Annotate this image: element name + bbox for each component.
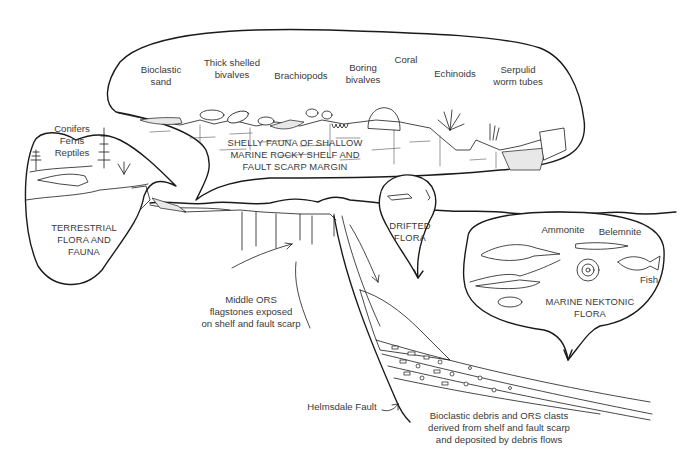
fault-arrow bbox=[382, 404, 398, 411]
label-thick-shelled-bivalves: Thick shelled bivalves bbox=[196, 57, 268, 81]
label-boring-bivalves: Boring bivalves bbox=[340, 62, 386, 86]
middle-ors-arrow-1 bbox=[232, 244, 292, 268]
marine-nektonic-title: MARINE NEKTONIC FLORA bbox=[538, 296, 642, 320]
label-serpulid-worm-tubes: Serpulid worm tubes bbox=[484, 64, 552, 88]
annotation-helmsdale-fault: Helmsdale Fault bbox=[304, 401, 380, 413]
bioclastic-wedge bbox=[152, 198, 186, 212]
annotation-middle-ors: Middle ORS flagstones exposed on shelf a… bbox=[196, 294, 306, 330]
label-fish: Fish bbox=[634, 274, 664, 286]
label-belemnite: Belemnite bbox=[592, 226, 648, 238]
shelf-fauna-bubble bbox=[107, 29, 584, 200]
annotation-debris-flows: Bioclastic debris and ORS clasts derived… bbox=[424, 410, 574, 446]
terrestrial-title: TERRESTRIAL FLORA AND FAUNA bbox=[40, 222, 128, 258]
label-bioclastic-sand: Bioclastic sand bbox=[131, 64, 191, 88]
drifted-flora-title: DRIFTED FLORA bbox=[386, 220, 434, 244]
label-brachiopods: Brachiopods bbox=[266, 70, 336, 82]
label-ammonite: Ammonite bbox=[535, 224, 591, 236]
label-conifers-ferns-reptiles: Conifers Ferns Reptiles bbox=[46, 123, 98, 159]
label-echinoids: Echinoids bbox=[426, 68, 484, 80]
label-coral: Coral bbox=[388, 54, 424, 66]
shelf-fauna-title: SHELLY FAUNA OF SHALLOW MARINE ROCKY SHE… bbox=[220, 137, 370, 173]
